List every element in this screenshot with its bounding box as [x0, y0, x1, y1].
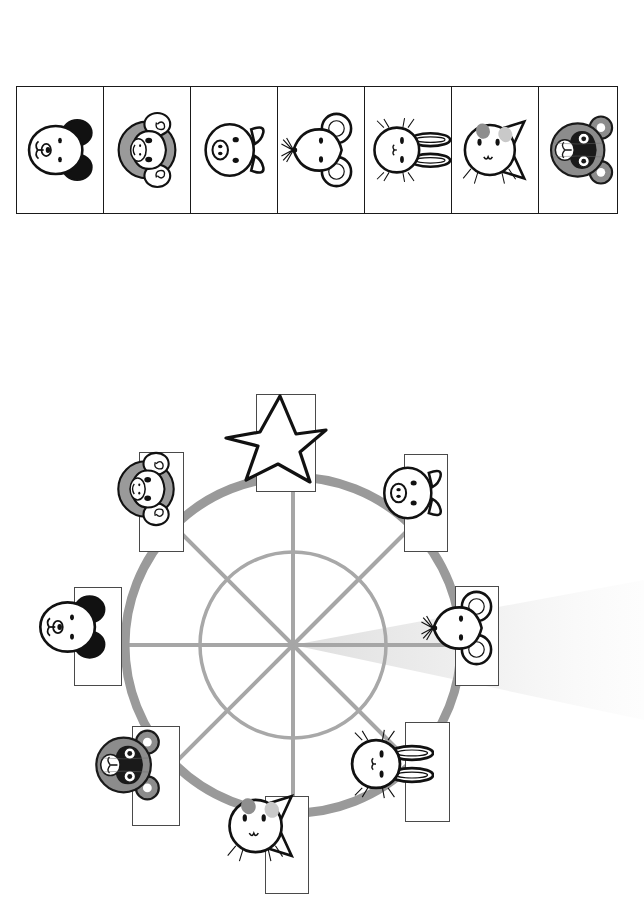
pig-face-icon — [191, 104, 277, 196]
spoke-nw — [174, 526, 293, 645]
strip-cell-monkey[interactable] — [104, 87, 191, 213]
rabbit-face-icon — [365, 104, 451, 196]
node-mouse[interactable] — [418, 582, 504, 674]
node-raccoon[interactable] — [84, 718, 172, 812]
animal-face-strip — [16, 86, 618, 214]
raccoon-face-icon — [539, 104, 625, 196]
strip-cell-rabbit[interactable] — [365, 87, 452, 213]
node-monkey[interactable] — [104, 444, 188, 534]
monkey-face-icon — [104, 444, 188, 534]
monkey-face-icon — [104, 104, 190, 196]
animal-wheel-diagram — [0, 382, 644, 902]
star-marker[interactable] — [222, 390, 330, 486]
rabbit-face-icon — [342, 716, 434, 812]
star-icon — [222, 390, 330, 486]
strip-cell-cat[interactable] — [452, 87, 539, 213]
dog-face-icon — [28, 580, 116, 674]
strip-cell-pig[interactable] — [191, 87, 278, 213]
spoke-sw — [174, 645, 293, 764]
node-rabbit[interactable] — [342, 716, 434, 812]
mouse-face-icon — [278, 104, 364, 196]
node-pig[interactable] — [370, 448, 454, 538]
strip-cell-raccoon[interactable] — [539, 87, 625, 213]
cat-face-icon — [452, 104, 538, 196]
mouse-face-icon — [418, 582, 504, 674]
raccoon-face-icon — [84, 718, 172, 812]
strip-cell-mouse[interactable] — [278, 87, 365, 213]
strip-cell-dog[interactable] — [17, 87, 104, 213]
node-cat[interactable] — [216, 778, 306, 874]
node-dog[interactable] — [28, 580, 116, 674]
cat-face-icon — [216, 778, 306, 874]
dog-face-icon — [17, 104, 103, 196]
pig-face-icon — [370, 448, 454, 538]
